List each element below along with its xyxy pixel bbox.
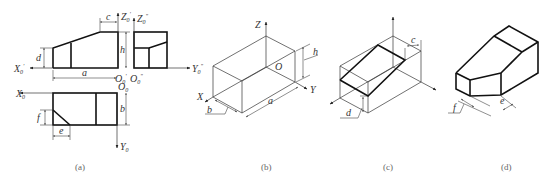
- cut-plane: [340, 45, 405, 96]
- label-y: Y: [310, 84, 317, 95]
- label-o0: O0: [118, 81, 128, 93]
- label-o0-dprime: O0": [130, 73, 143, 85]
- caption-d: (d): [501, 162, 512, 172]
- dim-label-a-b: a: [268, 95, 273, 106]
- dim-label-e-d: e: [500, 95, 505, 106]
- dimensions-d: [448, 96, 516, 116]
- panel-b: Z X Y O h a b (b): [196, 19, 318, 172]
- figure-canvas: X0' Z0' Z0" O0' O0" Y0" X0 O0 Y0 a d h c…: [0, 0, 555, 183]
- panel-a: X0' Z0' Z0" O0' O0" Y0" X0 O0 Y0 a d h c…: [13, 11, 204, 172]
- label-z: Z: [255, 19, 261, 30]
- label-x0: X0: [15, 88, 25, 100]
- panel-d: f e (d): [448, 26, 538, 172]
- caption-b: (b): [261, 162, 272, 172]
- dim-label-d: d: [36, 52, 42, 63]
- label-x: X: [196, 91, 204, 102]
- dim-label-f: f: [37, 112, 41, 123]
- axes-a: [20, 13, 190, 148]
- label-y0-dprime: Y0": [192, 63, 204, 75]
- caption-c: (c): [383, 162, 393, 172]
- dim-label-h: h: [120, 44, 125, 55]
- dim-label-h-b: h: [313, 46, 318, 57]
- dim-label-c: c: [106, 11, 111, 22]
- axes-c: [330, 17, 436, 104]
- isometric-box: [213, 36, 295, 113]
- dim-label-a: a: [82, 67, 87, 78]
- side-view: [134, 32, 167, 68]
- dim-label-b: b: [120, 103, 125, 114]
- dim-label-f-d: f: [453, 102, 457, 113]
- dim-label-c-c: c: [411, 34, 416, 45]
- dimensions-b: [205, 44, 318, 117]
- label-z0-dprime: Z0": [137, 13, 149, 25]
- caption-a: (a): [75, 162, 85, 172]
- panel-c: c d (c): [330, 17, 436, 172]
- dim-label-d-c: d: [346, 107, 352, 118]
- dim-label-e: e: [59, 125, 64, 136]
- top-view: [53, 93, 117, 125]
- label-z0-prime: Z0': [121, 11, 132, 23]
- front-view: [53, 32, 118, 68]
- label-o: O: [275, 61, 282, 72]
- finished-solid: [456, 26, 538, 96]
- isometric-box-c: [340, 36, 421, 113]
- label-y0: Y0: [120, 141, 129, 153]
- label-x0-prime: X0': [13, 63, 25, 75]
- dim-label-b-b: b: [207, 104, 212, 115]
- dimensions-c: [340, 40, 421, 118]
